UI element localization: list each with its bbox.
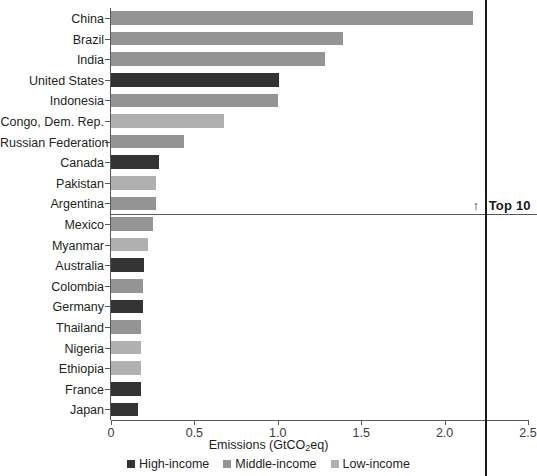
bar-row[interactable] — [111, 379, 528, 399]
y-axis-tick — [105, 80, 110, 81]
reference-vertical-line — [485, 0, 487, 476]
bar-colombia[interactable] — [111, 279, 143, 293]
x-axis-title-pre: Emissions (GtCO — [209, 438, 306, 452]
bar-row[interactable] — [111, 173, 528, 193]
bar-nigeria[interactable] — [111, 341, 141, 355]
bar-row[interactable] — [111, 132, 528, 152]
x-axis-tick — [445, 420, 446, 425]
emissions-bar-chart: 00.51.01.52.02.5 ↑ Top 10 Emissions (GtC… — [0, 0, 537, 476]
x-axis — [111, 420, 528, 421]
bar-australia[interactable] — [111, 258, 144, 272]
bar-argentina[interactable] — [111, 197, 156, 211]
legend-item-low[interactable]: Low-income — [331, 457, 410, 471]
y-axis-tick — [105, 18, 110, 19]
y-axis-label-colombia: Colombia — [0, 281, 104, 294]
x-axis-tick — [528, 420, 529, 425]
y-axis-label-pakistan: Pakistan — [0, 178, 104, 191]
y-axis-tick — [105, 348, 110, 349]
bar-france[interactable] — [111, 382, 141, 396]
bar-row[interactable] — [111, 90, 528, 110]
x-axis-tick — [278, 420, 279, 425]
y-axis-tick — [105, 162, 110, 163]
bar-row[interactable] — [111, 235, 528, 255]
y-axis-label-japan: Japan — [0, 404, 104, 417]
y-axis-tick — [105, 265, 110, 266]
legend-label: Low-income — [343, 457, 410, 471]
bar-row[interactable] — [111, 29, 528, 49]
bar-row[interactable] — [111, 8, 528, 28]
legend-swatch-icon — [223, 460, 231, 468]
y-axis-label-indonesia: Indonesia — [0, 95, 104, 108]
bar-mexico[interactable] — [111, 217, 153, 231]
y-axis-tick — [105, 306, 110, 307]
y-axis-label-india: India — [0, 54, 104, 67]
y-axis-label-germany: Germany — [0, 301, 104, 314]
bar-brazil[interactable] — [111, 32, 343, 46]
legend: High-incomeMiddle-incomeLow-income — [0, 457, 537, 471]
y-axis-label-myanmar: Myanmar — [0, 240, 104, 253]
bar-row[interactable] — [111, 255, 528, 275]
y-axis-tick — [105, 121, 110, 122]
y-axis-label-russian-federation: Russian Federation — [0, 137, 104, 150]
y-axis-label-ethiopia: Ethiopia — [0, 363, 104, 376]
y-axis-tick — [105, 224, 110, 225]
y-axis-tick — [105, 100, 110, 101]
bar-united-states[interactable] — [111, 73, 279, 87]
bar-pakistan[interactable] — [111, 176, 156, 190]
y-axis-label-thailand: Thailand — [0, 322, 104, 335]
bar-row[interactable] — [111, 296, 528, 316]
x-axis-title: Emissions (GtCO2eq) — [0, 438, 537, 452]
legend-item-middle[interactable]: Middle-income — [223, 457, 316, 471]
legend-item-high[interactable]: High-income — [127, 457, 209, 471]
y-axis-label-china: China — [0, 13, 104, 26]
bar-row[interactable] — [111, 214, 528, 234]
bar-row[interactable] — [111, 276, 528, 296]
bar-indonesia[interactable] — [111, 94, 278, 108]
y-axis-label-brazil: Brazil — [0, 34, 104, 47]
y-axis-tick — [105, 39, 110, 40]
bar-canada[interactable] — [111, 155, 159, 169]
y-axis-tick — [105, 245, 110, 246]
legend-swatch-icon — [127, 460, 135, 468]
y-axis-label-united-states: United States — [0, 75, 104, 88]
top-10-divider-line — [111, 214, 537, 215]
y-axis-tick — [105, 389, 110, 390]
y-axis-tick — [105, 59, 110, 60]
bar-row[interactable] — [111, 111, 528, 131]
bar-japan[interactable] — [111, 403, 138, 417]
x-axis-tick — [194, 420, 195, 425]
bar-row[interactable] — [111, 193, 528, 213]
bar-row[interactable] — [111, 317, 528, 337]
top-10-label: Top 10 — [489, 198, 531, 213]
bar-ethiopia[interactable] — [111, 361, 141, 375]
y-axis-tick — [105, 409, 110, 410]
y-axis-label-mexico: Mexico — [0, 219, 104, 232]
x-axis-tick — [111, 420, 112, 425]
bar-row[interactable] — [111, 152, 528, 172]
y-axis-label-nigeria: Nigeria — [0, 343, 104, 356]
bar-row[interactable] — [111, 338, 528, 358]
top-10-arrow-icon: ↑ — [473, 199, 480, 212]
y-axis-tick — [105, 286, 110, 287]
x-axis-title-subscript: 2 — [305, 443, 310, 453]
bar-row[interactable] — [111, 358, 528, 378]
x-axis-tick — [361, 420, 362, 425]
y-axis-tick — [105, 183, 110, 184]
bar-china[interactable] — [111, 11, 473, 25]
bar-congo-dem-rep[interactable] — [111, 114, 224, 128]
y-axis-label-france: France — [0, 384, 104, 397]
bar-row[interactable] — [111, 49, 528, 69]
y-axis-tick — [105, 203, 110, 204]
y-axis-label-argentina: Argentina — [0, 198, 104, 211]
bar-myanmar[interactable] — [111, 238, 148, 252]
bar-row[interactable] — [111, 399, 528, 419]
y-axis-tick — [105, 327, 110, 328]
bar-india[interactable] — [111, 52, 325, 66]
legend-label: High-income — [139, 457, 209, 471]
bar-thailand[interactable] — [111, 320, 141, 334]
bar-row[interactable] — [111, 70, 528, 90]
bar-germany[interactable] — [111, 300, 143, 314]
legend-swatch-icon — [331, 460, 339, 468]
bar-russian-federation[interactable] — [111, 135, 184, 149]
y-axis-tick — [105, 368, 110, 369]
